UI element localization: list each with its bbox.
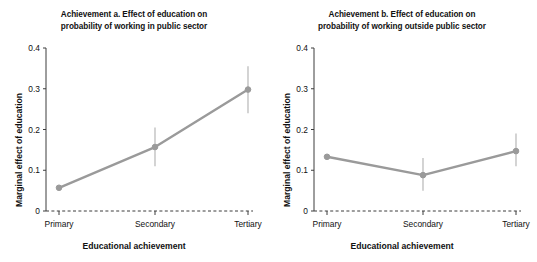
panel-a-y-tick-label: 0 bbox=[35, 206, 40, 216]
panel-b-series-line bbox=[327, 151, 516, 175]
figure-two-panel-chart: Achievement a. Effect of education on pr… bbox=[0, 0, 537, 262]
panel-b-data-point bbox=[324, 154, 330, 160]
panel-b-x-tick-label: Primary bbox=[313, 219, 343, 229]
panel-a-x-tick-label: Secondary bbox=[135, 219, 176, 229]
panel-b-plot-area: 00.10.20.30.4PrimarySecondaryTertiary bbox=[268, 0, 536, 262]
panel-a-data-point bbox=[56, 185, 62, 191]
panel-a-data-point bbox=[152, 144, 158, 150]
panel-a-y-tick-label: 0.1 bbox=[28, 165, 40, 175]
panel-b-y-tick-label: 0 bbox=[303, 206, 308, 216]
panel-b-x-tick-label: Secondary bbox=[403, 219, 444, 229]
chart-panel-a: Achievement a. Effect of education on pr… bbox=[0, 0, 268, 262]
panel-b-x-axis-label: Educational achievement bbox=[268, 241, 536, 251]
panel-a-data-point bbox=[245, 87, 251, 93]
panel-a-series-line bbox=[59, 90, 248, 188]
panel-b-y-tick-label: 0.4 bbox=[296, 43, 308, 53]
chart-panel-b: Achievement b. Effect of education on pr… bbox=[268, 0, 536, 262]
panel-b-y-tick-label: 0.1 bbox=[296, 165, 308, 175]
panel-a-plot-area: 00.10.20.30.4PrimarySecondaryTertiary bbox=[0, 0, 268, 262]
panel-a-y-tick-label: 0.4 bbox=[28, 43, 40, 53]
panel-a-x-axis-label: Educational achievement bbox=[0, 241, 268, 251]
panel-b-y-tick-label: 0.3 bbox=[296, 84, 308, 94]
panel-a-x-tick-label: Primary bbox=[45, 219, 75, 229]
panel-a-y-tick-label: 0.3 bbox=[28, 84, 40, 94]
panel-b-data-point bbox=[513, 148, 519, 154]
panel-a-x-tick-label: Tertiary bbox=[234, 219, 262, 229]
panel-a-y-tick-label: 0.2 bbox=[28, 125, 40, 135]
panel-b-data-point bbox=[420, 172, 426, 178]
panel-b-x-tick-label: Tertiary bbox=[502, 219, 530, 229]
panel-b-y-tick-label: 0.2 bbox=[296, 125, 308, 135]
